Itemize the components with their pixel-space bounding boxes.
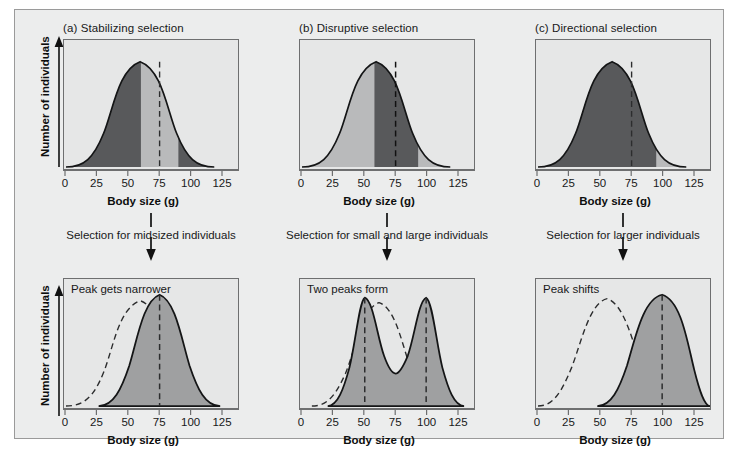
- selection-text-c: Selection for larger individuals: [546, 229, 699, 241]
- x-tick-c3b: 75: [625, 416, 638, 428]
- x-tick-c4: 100: [653, 177, 672, 189]
- x-tick-a1: 25: [90, 177, 103, 189]
- x-tick-c3: 75: [625, 177, 638, 189]
- plot-a-after-label: Peak gets narrower: [71, 283, 171, 295]
- panel-c-caption: (c) Directional selection: [535, 22, 657, 34]
- selection-text-b: Selection for small and large individual…: [286, 229, 488, 241]
- x-tick-c1b: 25: [562, 416, 575, 428]
- x-tick-a4: 100: [181, 177, 200, 189]
- x-axis-a-top-ticks: [63, 170, 239, 177]
- plot-a-before: [63, 39, 239, 170]
- x-tick-b0: 0: [298, 177, 304, 189]
- plot-c-after: Peak shifts: [535, 278, 711, 409]
- x-axis-b-bottom-ticks: [299, 409, 475, 416]
- x-tick-c1: 25: [562, 177, 575, 189]
- figure-panel: Number of individuals (a) Stabilizing se…: [14, 9, 724, 439]
- x-tick-b3: 75: [389, 177, 402, 189]
- x-tick-c2b: 50: [593, 416, 606, 428]
- x-axis-c-top-ticks: [535, 170, 711, 177]
- x-axis-title-a-top: Body size (g): [107, 195, 179, 207]
- x-tick-b0b: 0: [298, 416, 304, 428]
- plot-b-after-svg: [300, 279, 474, 408]
- x-axis-c-bottom-ticks: [535, 409, 711, 416]
- plot-c-before-svg: [536, 40, 710, 169]
- plot-b-after-label: Two peaks form: [307, 283, 388, 295]
- panel-a-caption: (a) Stabilizing selection: [63, 22, 184, 34]
- x-axis-title-c-top: Body size (g): [579, 195, 651, 207]
- x-tick-a0: 0: [62, 177, 68, 189]
- x-axis-b-bottom: 0 25 50 75 100 125: [299, 409, 475, 435]
- x-tick-b5b: 125: [448, 416, 467, 428]
- x-tick-c4b: 100: [653, 416, 672, 428]
- x-tick-a3: 75: [153, 177, 166, 189]
- y-axis-title-bottom: Number of individuals: [39, 285, 51, 406]
- x-tick-c0: 0: [534, 177, 540, 189]
- x-tick-b1b: 25: [326, 416, 339, 428]
- x-axis-title-a-bottom: Body size (g): [107, 434, 179, 446]
- plot-a-before-svg: [64, 40, 238, 169]
- plot-a-after: Peak gets narrower: [63, 278, 239, 409]
- x-tick-a5b: 125: [212, 416, 231, 428]
- plot-a-after-svg: [64, 279, 238, 408]
- x-tick-a5: 125: [212, 177, 231, 189]
- x-tick-c5: 125: [684, 177, 703, 189]
- x-axis-c-bottom: 0 25 50 75 100 125: [535, 409, 711, 435]
- x-tick-a2b: 50: [121, 416, 134, 428]
- plot-c-after-svg: [536, 279, 710, 408]
- x-tick-c5b: 125: [684, 416, 703, 428]
- x-tick-a3b: 75: [153, 416, 166, 428]
- x-tick-a2: 50: [121, 177, 134, 189]
- x-axis-title-b-bottom: Body size (g): [343, 434, 415, 446]
- y-axis-title-top: Number of individuals: [39, 36, 51, 157]
- plot-b-after: Two peaks form: [299, 278, 475, 409]
- x-tick-a1b: 25: [90, 416, 103, 428]
- plot-b-before: [299, 39, 475, 170]
- x-axis-b-top-ticks: [299, 170, 475, 177]
- x-tick-a0b: 0: [62, 416, 68, 428]
- x-tick-c0b: 0: [534, 416, 540, 428]
- x-axis-c-top: 0 25 50 75 100 125: [535, 170, 711, 196]
- plot-c-after-label: Peak shifts: [543, 283, 599, 295]
- selection-text-a: Selection for midsized individuals: [66, 229, 235, 241]
- x-tick-b4: 100: [417, 177, 436, 189]
- x-axis-title-b-top: Body size (g): [343, 195, 415, 207]
- plot-c-before: [535, 39, 711, 170]
- x-tick-b2: 50: [357, 177, 370, 189]
- x-tick-b3b: 75: [389, 416, 402, 428]
- x-tick-b2b: 50: [357, 416, 370, 428]
- x-axis-a-bottom-ticks: [63, 409, 239, 416]
- panel-b-caption: (b) Disruptive selection: [299, 22, 418, 34]
- x-axis-b-top: 0 25 50 75 100 125: [299, 170, 475, 196]
- x-tick-a4b: 100: [181, 416, 200, 428]
- plot-b-before-svg: [300, 40, 474, 169]
- x-tick-b4b: 100: [417, 416, 436, 428]
- x-axis-title-c-bottom: Body size (g): [579, 434, 651, 446]
- x-tick-b1: 25: [326, 177, 339, 189]
- x-tick-c2: 50: [593, 177, 606, 189]
- x-tick-b5: 125: [448, 177, 467, 189]
- x-axis-a-bottom: 0 25 50 75 100 125: [63, 409, 239, 435]
- x-axis-a-top: 0 25 50 75 100 125: [63, 170, 239, 196]
